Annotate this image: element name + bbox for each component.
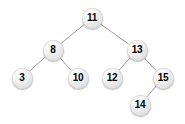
tree-node-label: 13 <box>132 45 143 55</box>
tree-node-11[interactable]: 11 <box>82 8 103 29</box>
tree-node-14[interactable]: 14 <box>130 95 151 116</box>
tree-node-label: 14 <box>135 100 146 110</box>
tree-node-13[interactable]: 13 <box>127 40 148 61</box>
tree-node-label: 8 <box>50 45 55 55</box>
tree-node-label: 10 <box>73 73 84 83</box>
tree-node-12[interactable]: 12 <box>102 68 123 89</box>
tree-node-label: 11 <box>87 13 97 23</box>
tree-node-8[interactable]: 8 <box>43 40 64 61</box>
tree-node-label: 12 <box>107 73 118 83</box>
tree-node-label: 3 <box>19 73 24 83</box>
binary-search-tree-diagram: 11813310121514 <box>0 0 185 124</box>
tree-node-3[interactable]: 3 <box>12 68 33 89</box>
tree-node-layer: 11813310121514 <box>0 0 185 124</box>
tree-node-15[interactable]: 15 <box>153 68 174 89</box>
tree-node-10[interactable]: 10 <box>68 68 89 89</box>
tree-node-label: 15 <box>158 73 169 83</box>
